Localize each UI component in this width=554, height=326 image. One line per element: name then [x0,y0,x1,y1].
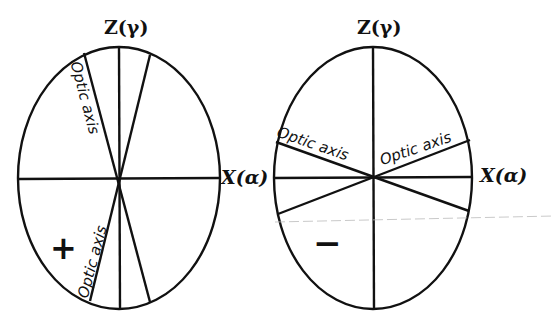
negative-sign: − [313,226,342,260]
left-z-label: Z(γ) [104,18,148,37]
positive-sign: + [50,232,77,264]
right-z-label: Z(γ) [357,18,401,37]
right-indicatrix [274,47,472,309]
scan-artifact-line [275,216,554,222]
left-indicatrix [18,47,220,309]
left-x-label: X(α) [221,168,268,187]
right-x-label: X(α) [480,166,527,185]
